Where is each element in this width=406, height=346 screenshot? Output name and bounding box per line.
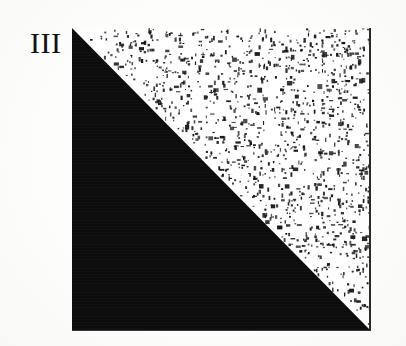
plate-label: III (30, 27, 72, 59)
figure-root: III (0, 0, 406, 346)
dark-triangle-svg (72, 28, 371, 331)
figure-panel (72, 28, 371, 331)
dark-region (72, 28, 371, 331)
